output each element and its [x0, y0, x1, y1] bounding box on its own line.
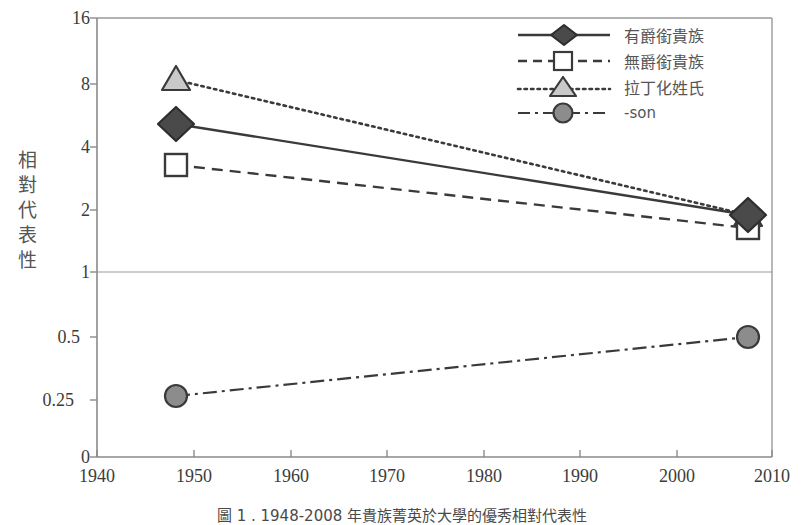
figure-caption: 圖 1 . 1948-2008 年貴族菁英於大學的優秀相對代表性 [0, 504, 804, 525]
y-axis-ticks [90, 18, 97, 457]
legend-label-untitled-nobility: 無爵銜貴族 [612, 49, 704, 73]
legend-item-son: -son [516, 100, 768, 126]
legend-swatch-open-square [516, 48, 612, 74]
legend-label-titled-nobility: 有爵銜貴族 [612, 23, 704, 47]
series-line-son [176, 337, 748, 396]
series-line-titled-nobility [176, 124, 748, 215]
legend-swatch-gray-triangle [516, 74, 612, 100]
legend-swatch-filled-diamond [516, 22, 612, 48]
legend-label-son: -son [612, 104, 656, 122]
x-axis-ticks [97, 450, 772, 457]
marker-son [165, 326, 759, 407]
series-line-untitled-nobility [176, 165, 748, 228]
legend-item-titled-nobility: 有爵銜貴族 [516, 22, 768, 48]
legend-item-untitled-nobility: 無爵銜貴族 [516, 48, 768, 74]
legend-label-latinized: 拉丁化姓氏 [612, 75, 704, 99]
legend-swatch-gray-circle [516, 100, 612, 126]
chart-legend: 有爵銜貴族 無爵銜貴族 拉丁化姓氏 [516, 22, 768, 126]
legend-item-latinized: 拉丁化姓氏 [516, 74, 768, 100]
